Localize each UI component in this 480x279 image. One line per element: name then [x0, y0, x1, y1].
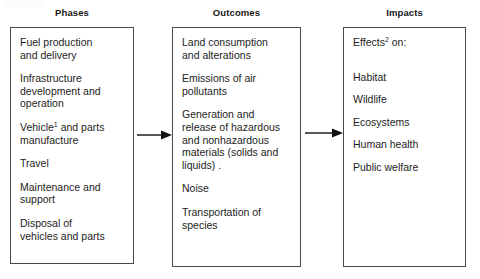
- column-heading-phases: Phases: [10, 7, 134, 19]
- list-item: Generation and release of hazardous and …: [182, 108, 300, 171]
- column-heading-outcomes: Outcomes: [172, 7, 301, 19]
- box-outcomes-content: Land consumption and alterations Emissio…: [173, 28, 300, 231]
- list-item: Wildlife: [353, 93, 465, 106]
- list-item: Vehicle1 and parts manufacture: [20, 121, 133, 146]
- list-item: Land consumption and alterations: [182, 36, 300, 61]
- list-item: Human health: [353, 138, 465, 151]
- list-item: Infrastructure development and operation: [20, 72, 133, 110]
- list-item: Public welfare: [353, 161, 465, 174]
- box-impacts-content: Effects2 on: Habitat Wildlife Ecosystems…: [344, 28, 465, 174]
- box-impacts: Effects2 on: Habitat Wildlife Ecosystems…: [343, 27, 466, 267]
- box-phases: Fuel production and delivery Infrastruct…: [10, 27, 134, 264]
- box-phases-content: Fuel production and delivery Infrastruct…: [11, 28, 133, 242]
- right-arrow-icon: [305, 127, 343, 139]
- column-heading-impacts: Impacts: [343, 7, 466, 19]
- list-item: Travel: [20, 157, 133, 170]
- list-item: Transportation of species: [182, 206, 300, 231]
- list-item: Noise: [182, 182, 300, 195]
- box-outcomes: Land consumption and alterations Emissio…: [172, 27, 301, 267]
- list-item: Fuel production and delivery: [20, 36, 133, 61]
- list-item: Emissions of air pollutants: [182, 72, 300, 97]
- list-item: Maintenance and support: [20, 181, 133, 206]
- flow-diagram: Phases Fuel production and delivery Infr…: [0, 0, 480, 279]
- list-item: Ecosystems: [353, 116, 465, 129]
- right-arrow-icon: [137, 129, 172, 141]
- footnote-marker: 1: [54, 120, 58, 127]
- list-item: Disposal of vehicles and parts: [20, 217, 133, 242]
- list-item: Effects2 on:: [353, 36, 465, 49]
- list-item: Habitat: [353, 71, 465, 84]
- footnote-marker: 2: [385, 36, 389, 43]
